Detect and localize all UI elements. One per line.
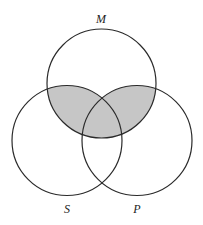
label-s: S bbox=[64, 202, 70, 216]
label-p: P bbox=[132, 202, 141, 216]
venn-diagram: M S P bbox=[0, 0, 203, 225]
label-m: M bbox=[95, 12, 107, 26]
shaded-region bbox=[12, 86, 192, 196]
